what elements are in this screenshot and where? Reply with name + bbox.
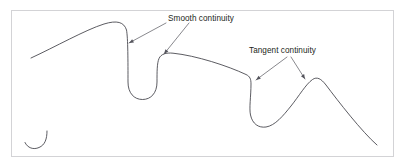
hook-curve (25, 131, 47, 149)
annotation-tangent-continuity: Tangent continuity (249, 46, 317, 80)
figure-root: Smooth continuity Tangent continuity (0, 0, 406, 167)
continuity-diagram: Smooth continuity Tangent continuity (0, 0, 406, 167)
annotation-smooth-continuity: Smooth continuity (129, 14, 235, 54)
arrow-head-tangent-left (256, 76, 261, 80)
leader-line-smooth-left (129, 23, 166, 43)
label-smooth-continuity: Smooth continuity (168, 14, 235, 23)
leader-line-tangent-left (256, 57, 287, 80)
figure-border (12, 11, 394, 157)
leader-line-smooth-right (164, 23, 189, 54)
label-tangent-continuity: Tangent continuity (249, 46, 317, 55)
main-curve (31, 22, 377, 145)
arrow-head-tangent-right (301, 74, 305, 79)
